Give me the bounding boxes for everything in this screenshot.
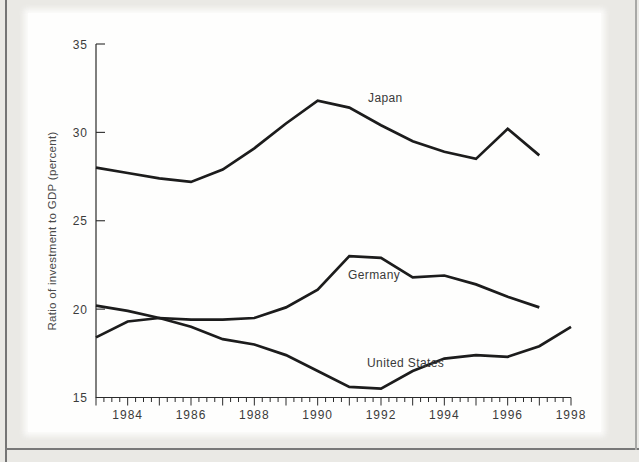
series-line-japan	[96, 101, 539, 182]
page-frame-right	[635, 0, 637, 450]
y-tick-label: 30	[73, 126, 88, 140]
x-tick-label: 1986	[176, 408, 207, 422]
axes	[96, 44, 571, 398]
x-tick-label: 1992	[366, 408, 397, 422]
y-tick-label: 20	[73, 303, 88, 317]
y-tick-label: 25	[73, 214, 88, 228]
y-tick-label: 35	[73, 38, 88, 52]
investment-gdp-line-chart: 1520253035198419861988199019921994199619…	[0, 0, 639, 462]
x-tick-label: 1994	[429, 408, 460, 422]
series-label-united-states: United States	[367, 356, 444, 370]
scanned-figure-page: 1520253035198419861988199019921994199619…	[0, 0, 639, 462]
series-line-germany	[96, 256, 539, 337]
series-label-japan: Japan	[368, 91, 403, 105]
x-tick-label: 1984	[112, 408, 143, 422]
x-tick-label: 1988	[239, 408, 270, 422]
x-tick-label: 1990	[302, 408, 333, 422]
series-label-germany: Germany	[348, 268, 400, 282]
y-axis-title: Ratio of investment to GDP (percent)	[46, 131, 58, 330]
page-frame-left	[5, 0, 7, 462]
x-tick-label: 1998	[556, 408, 587, 422]
x-tick-label: 1996	[492, 408, 523, 422]
y-tick-label: 15	[73, 391, 88, 405]
page-frame-bottom	[5, 448, 639, 450]
